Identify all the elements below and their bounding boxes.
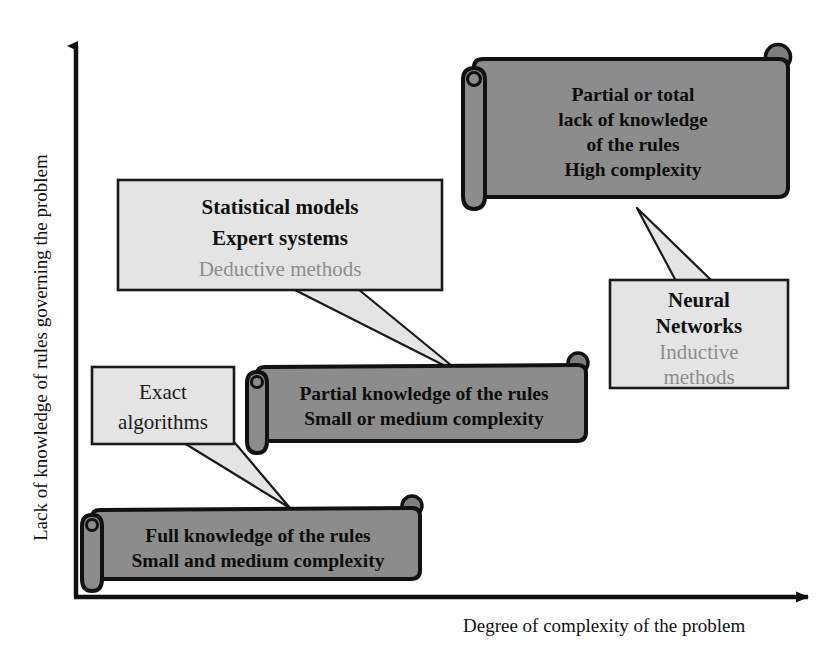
callout-line: Networks [656, 314, 742, 338]
scroll-curl-left-icon [247, 372, 267, 453]
scroll-line: lack of knowledge [558, 109, 708, 130]
callout-line: methods [663, 365, 734, 389]
high-complexity-scroll: Partial or total lack of knowledge of th… [463, 45, 791, 210]
y-axis-label: Lack of knowledge of rules governing the… [30, 154, 51, 541]
callout-line: Exact [139, 380, 187, 404]
scroll-line: High complexity [564, 159, 701, 180]
callout-line: algorithms [118, 410, 208, 434]
scroll-line: Small and medium complexity [132, 550, 385, 571]
callout-line: Expert systems [212, 226, 348, 250]
exact-algorithms-callout[interactable]: Exact algorithms [92, 367, 234, 444]
statistical-models-callout-tail [293, 289, 463, 375]
scroll-curl-left-icon [463, 68, 485, 209]
scroll-line: Small or medium complexity [304, 408, 544, 429]
neural-networks-callout[interactable]: Neural Networks Inductive methods [610, 280, 788, 389]
callout-line: Deductive methods [199, 257, 362, 281]
neural-networks-callout-tail [637, 208, 712, 281]
statistical-models-callout[interactable]: Statistical models Expert systems Deduct… [118, 180, 442, 290]
callout-line: Inductive [659, 340, 738, 364]
concept-diagram: Lack of knowledge of rules governing the… [0, 0, 831, 651]
partial-knowledge-scroll: Partial knowledge of the rules Small or … [247, 353, 588, 453]
scroll-line: Full knowledge of the rules [145, 525, 371, 546]
x-axis-label: Degree of complexity of the problem [463, 615, 745, 636]
callout-line: Statistical models [202, 195, 359, 219]
scroll-line: of the rules [586, 134, 680, 155]
full-knowledge-scroll: Full knowledge of the rules Small and me… [82, 496, 422, 591]
scroll-line: Partial or total [571, 84, 695, 105]
exact-algorithms-callout-tail [184, 443, 290, 508]
diagram-canvas: Lack of knowledge of rules governing the… [0, 0, 831, 651]
scroll-curl-left-icon [82, 515, 102, 591]
callout-line: Neural [668, 288, 730, 312]
scroll-line: Partial knowledge of the rules [299, 383, 549, 404]
